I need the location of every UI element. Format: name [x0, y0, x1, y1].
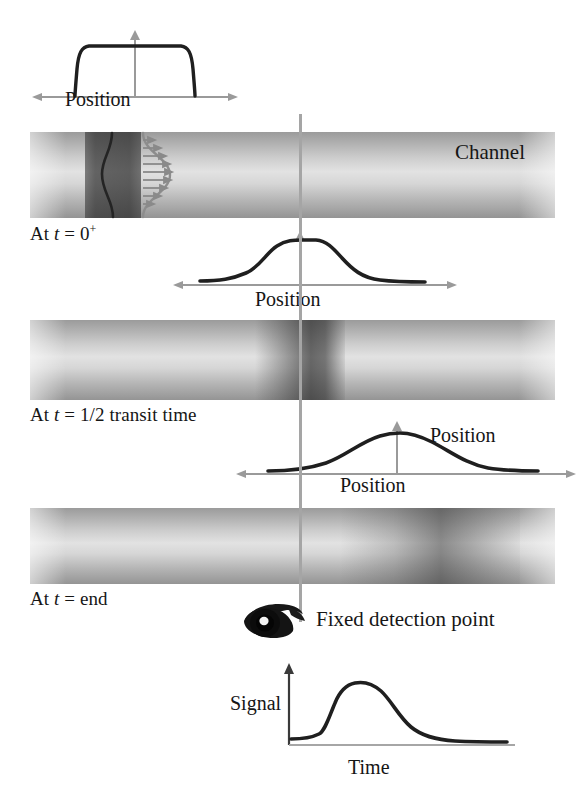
plot2-panel [170, 228, 460, 296]
channel-right-fade [519, 508, 555, 584]
plot1-svg [30, 25, 240, 110]
caption1-sup: + [90, 222, 97, 236]
eye-highlight [259, 617, 268, 625]
sample-plug-t0 [85, 132, 141, 218]
caption3-prefix: At [30, 588, 54, 609]
caption-stage-2: At t = 1/2 transit time [30, 404, 197, 426]
caption-stage-3: At t = end [30, 588, 108, 610]
channel-right-fade [519, 320, 555, 400]
plot4-signal-curve [291, 682, 507, 742]
channel-left-fade [30, 132, 66, 218]
taylor-dispersion-figure: Position Channel At t = 0+ [0, 0, 587, 801]
plot2-svg [170, 228, 460, 296]
channel-left-fade [30, 508, 66, 584]
eye-icon-svg [243, 601, 307, 641]
caption2-value: = 1/2 transit time [59, 404, 196, 425]
plot3-y-axis [392, 421, 402, 474]
caption-stage-1: At t = 0+ [30, 222, 96, 245]
plot4-y-axis-label: Signal [230, 692, 281, 715]
plot4-x-axis-label: Time [348, 756, 390, 779]
channel-label: Channel [455, 140, 525, 165]
plot2-concentration-curve [200, 240, 425, 282]
plot3-y-axis-label: Position [430, 424, 496, 447]
plot1-panel [30, 25, 240, 110]
plot1-y-axis [130, 30, 140, 97]
plot4-y-axis [284, 663, 294, 745]
fixed-detection-line [299, 114, 302, 622]
sample-plug-end [340, 508, 520, 584]
plot1-x-axis-label: Position [65, 88, 131, 111]
caption2-prefix: At [30, 404, 54, 425]
channel-left-fade [30, 320, 66, 400]
caption1-prefix: At [30, 223, 54, 244]
eye-icon [243, 601, 307, 641]
channel-band-half-transit [30, 320, 555, 400]
plot2-x-axis-label: Position [255, 288, 321, 311]
plot3-x-axis-label: Position [340, 474, 406, 497]
channel-band-end [30, 508, 555, 584]
plot3-concentration-curve [268, 433, 538, 471]
detector-label: Fixed detection point [316, 607, 494, 632]
caption1-value: = 0 [59, 223, 89, 244]
caption3-value: = end [59, 588, 107, 609]
